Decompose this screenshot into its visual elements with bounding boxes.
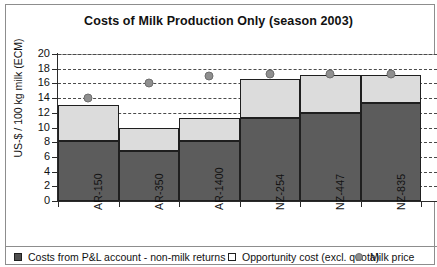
milk-price-marker	[84, 94, 93, 103]
bar-group	[119, 54, 180, 201]
bar-segment-opportunity-cost	[179, 118, 240, 141]
x-axis-category-label: NZ-835	[395, 174, 407, 210]
bar-segment-costs-pl-account	[58, 141, 119, 201]
bar-segment-costs-pl-account	[361, 103, 422, 201]
y-axis-tick	[52, 142, 58, 143]
x-axis-tick	[300, 201, 301, 207]
milk-price-marker	[326, 69, 335, 78]
bar-segment-opportunity-cost	[300, 75, 361, 113]
x-axis-line	[57, 201, 437, 202]
x-axis-tick	[421, 201, 422, 207]
x-axis-tick	[58, 201, 59, 207]
chart-title: Costs of Milk Production Only (season 20…	[0, 14, 437, 28]
bar-segment-opportunity-cost	[240, 79, 301, 118]
x-axis-tick	[361, 201, 362, 207]
y-axis-tick	[52, 69, 58, 70]
y-axis-tick-label: 10	[28, 122, 50, 133]
x-axis-category-label: NZ-254	[274, 174, 286, 210]
y-axis-tick-label: 20	[28, 48, 50, 59]
bar-segment-costs-pl-account	[179, 141, 240, 201]
y-axis-tick-label: 0	[28, 195, 50, 206]
legend-label: Milk price	[370, 251, 414, 263]
legend-item: Costs from P&L account - non-milk return…	[14, 251, 225, 263]
bar-segment-costs-pl-account	[300, 113, 361, 201]
y-axis-tick	[52, 83, 58, 84]
bar-group	[58, 54, 119, 201]
milk-price-marker	[386, 69, 395, 78]
x-axis-category-label: AR-1400	[213, 167, 225, 210]
bar-segment-opportunity-cost	[361, 75, 422, 104]
legend-item: Milk price	[354, 251, 414, 263]
y-axis-tick-labels: 02468101214161820	[24, 0, 50, 267]
dark-square-swatch	[14, 253, 22, 261]
y-axis-tick-label: 14	[28, 92, 50, 103]
y-axis-tick	[52, 186, 58, 187]
legend-label: Costs from P&L account - non-milk return…	[28, 251, 225, 263]
x-axis-tick	[179, 201, 180, 207]
milk-price-marker	[205, 72, 214, 81]
y-axis-tick-label: 16	[28, 77, 50, 88]
y-axis-tick	[52, 113, 58, 114]
bar-segment-costs-pl-account	[119, 151, 180, 201]
x-axis-category-label: AR-150	[92, 173, 104, 210]
milk-price-marker	[265, 69, 274, 78]
chart-screenshot: Costs of Milk Production Only (season 20…	[0, 0, 437, 267]
x-axis-tick	[119, 201, 120, 207]
y-axis-tick-label: 18	[28, 63, 50, 74]
y-axis-tick	[52, 172, 58, 173]
y-axis-tick	[52, 54, 58, 55]
grey-dot-marker	[355, 253, 363, 261]
y-axis-tick-label: 2	[28, 180, 50, 191]
y-axis-tick	[52, 128, 58, 129]
chart-legend: Costs from P&L account - non-milk return…	[6, 246, 437, 267]
x-axis-category-label: AR-350	[153, 173, 165, 210]
y-axis-tick	[52, 98, 58, 99]
x-axis-tick	[240, 201, 241, 207]
y-axis-tick-label: 6	[28, 151, 50, 162]
y-axis-tick-label: 4	[28, 166, 50, 177]
y-axis-tick-label: 12	[28, 107, 50, 118]
plot-area	[58, 54, 437, 201]
y-axis-title: US-$ / 100 kg milk (ECM)	[12, 28, 24, 168]
light-square-swatch	[228, 253, 236, 261]
bar-segment-costs-pl-account	[240, 118, 301, 201]
y-axis-tick	[52, 157, 58, 158]
x-axis-category-label: NZ-447	[334, 174, 346, 210]
bar-segment-opportunity-cost	[119, 128, 180, 152]
milk-price-marker	[144, 79, 153, 88]
y-axis-tick-label: 8	[28, 136, 50, 147]
bar-segment-opportunity-cost	[58, 105, 119, 140]
